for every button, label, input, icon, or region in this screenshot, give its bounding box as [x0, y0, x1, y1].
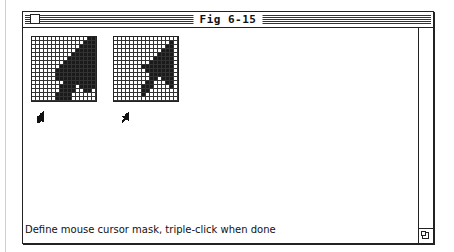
window-title: Fig 6-15: [194, 12, 263, 27]
vertical-scrollbar[interactable]: [418, 28, 433, 243]
content-area: Define mouse cursor mask, triple-click w…: [23, 28, 418, 243]
cursor-bit-grid[interactable]: [113, 36, 179, 102]
bit-cell[interactable]: [92, 97, 96, 101]
preview-pixel: [43, 122, 44, 123]
cursor-preview-icon: [117, 111, 129, 123]
status-prompt: Define mouse cursor mask, triple-click w…: [25, 224, 276, 235]
close-box-icon[interactable]: [30, 14, 40, 24]
mask-preview-icon: [32, 111, 44, 123]
grow-box-icon[interactable]: [418, 228, 433, 243]
bit-cell[interactable]: [174, 97, 178, 101]
mask-bit-grid[interactable]: [31, 36, 97, 102]
title-bar[interactable]: Fig 6-15: [23, 12, 433, 28]
fatbits-window: Fig 6-15 Define mouse cursor mask, tripl…: [22, 11, 434, 244]
page-margin-rule: [5, 0, 6, 252]
preview-pixel: [128, 122, 129, 123]
